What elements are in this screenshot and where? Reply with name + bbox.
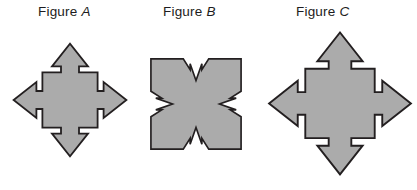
figure-b-label-word: Figure bbox=[163, 4, 202, 19]
figure-c-label-word: Figure bbox=[296, 4, 335, 19]
figure-c-path bbox=[269, 33, 411, 175]
figure-c-label: Figure C bbox=[296, 4, 349, 20]
figure-b-label-letter: B bbox=[206, 4, 215, 19]
figure-a-label-letter: A bbox=[81, 4, 90, 19]
figure-a-label: Figure A bbox=[38, 4, 91, 20]
figure-c-label-letter: C bbox=[339, 4, 349, 19]
figure-a-label-word: Figure bbox=[38, 4, 77, 19]
figure-c-shape bbox=[264, 28, 416, 190]
figure-b-shape bbox=[147, 55, 245, 153]
figure-b-label: Figure B bbox=[163, 4, 216, 20]
figure-a-shape bbox=[10, 40, 130, 172]
figure-comparison-canvas: Figure A Figure B Figure C bbox=[0, 0, 417, 190]
figure-b-path bbox=[151, 59, 241, 149]
figure-a-path bbox=[14, 44, 127, 157]
